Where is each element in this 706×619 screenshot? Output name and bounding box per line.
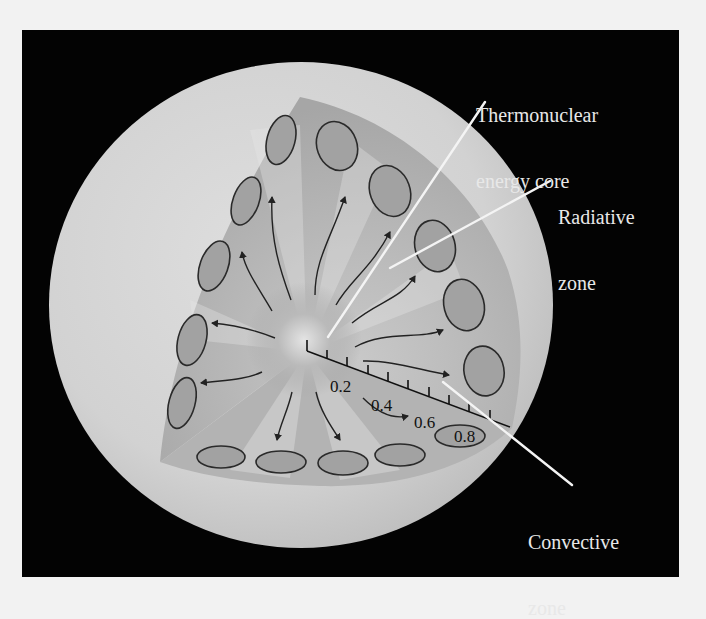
scale-tick-label: 0.4	[371, 396, 393, 415]
scale-tick-label: 0.2	[330, 377, 351, 396]
label-convective-zone: Convective zone	[528, 487, 619, 619]
label-radiative-zone: Radiative zone	[558, 162, 635, 338]
scale-tick-label: 0.8	[454, 427, 475, 446]
label-line: Thermonuclear	[476, 104, 598, 126]
label-line: zone	[528, 597, 619, 619]
label-line: Convective	[528, 531, 619, 553]
label-line: zone	[558, 272, 635, 294]
scale-tick-label: 0.6	[414, 413, 435, 432]
label-line: Radiative	[558, 206, 635, 228]
